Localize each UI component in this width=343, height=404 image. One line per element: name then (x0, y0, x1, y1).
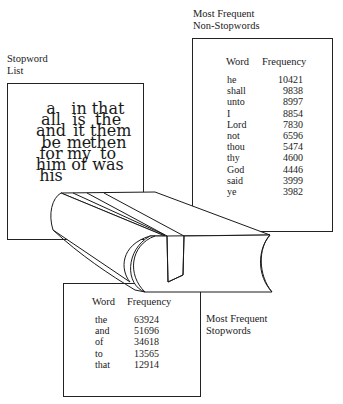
book-icon (0, 0, 343, 404)
